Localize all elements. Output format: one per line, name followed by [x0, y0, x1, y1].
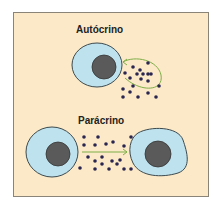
paracrine-target-cell	[130, 128, 187, 175]
paracrine-source-cell	[26, 127, 78, 177]
paracrine-arrow	[82, 149, 127, 155]
autocrine-cell	[72, 43, 122, 87]
diagram-graphic	[0, 0, 220, 211]
paracrine-molecules	[78, 135, 133, 171]
